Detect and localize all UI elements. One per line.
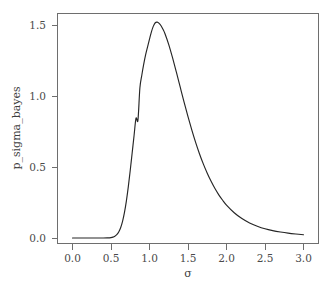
x-tick-label: 3.0 [295, 252, 312, 264]
chart-figure: 0.00.51.01.52.02.53.0 0.00.51.01.5 σ p_s… [0, 0, 332, 289]
plot-background [0, 0, 332, 289]
y-axis-title: p_sigma_bayes [10, 86, 23, 170]
y-tick-label: 0.5 [29, 161, 46, 173]
x-tick-label: 0.5 [103, 252, 120, 264]
x-tick-label: 1.0 [141, 252, 158, 264]
x-tick-label: 2.5 [257, 252, 274, 264]
y-tick-label: 0.0 [29, 232, 46, 244]
x-tick-label: 0.0 [64, 252, 81, 264]
y-tick-label: 1.5 [29, 19, 46, 31]
x-tick-label: 2.0 [218, 252, 235, 264]
density-plot: 0.00.51.01.52.02.53.0 0.00.51.01.5 σ p_s… [0, 0, 332, 289]
x-tick-label: 1.5 [180, 252, 197, 264]
x-axis-title: σ [184, 267, 192, 280]
y-tick-label: 1.0 [29, 90, 46, 102]
